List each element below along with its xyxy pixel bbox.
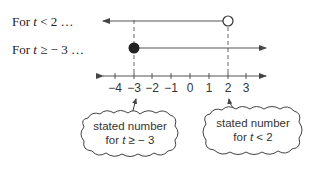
callout-line1: stated number — [206, 116, 300, 130]
tick-label: 2 — [220, 81, 236, 95]
callout-relation: < 2 — [253, 131, 273, 143]
closed-dot-endpoint-minus-3 — [129, 43, 140, 54]
tick-label: −4 — [107, 81, 123, 95]
callout-prefix: for — [233, 131, 250, 143]
tick-label: 3 — [238, 81, 254, 95]
callout-text-minus-3: stated number for t ≥ − 3 — [84, 119, 176, 147]
callout-text-2: stated number for t < 2 — [206, 116, 300, 144]
callout-line1: stated number — [84, 119, 176, 133]
callout-line2: for t ≥ − 3 — [84, 133, 176, 147]
tick-label: −2 — [144, 81, 160, 95]
tick-label: 0 — [182, 81, 198, 95]
tick-label: 1 — [201, 81, 217, 95]
callout-relation: ≥ − 3 — [125, 134, 154, 146]
callout-prefix: for — [106, 134, 123, 146]
callout-line2: for t < 2 — [206, 130, 300, 144]
open-circle-endpoint-2 — [223, 16, 233, 26]
tick-label: −1 — [163, 81, 179, 95]
tick-label: −3 — [126, 81, 142, 95]
